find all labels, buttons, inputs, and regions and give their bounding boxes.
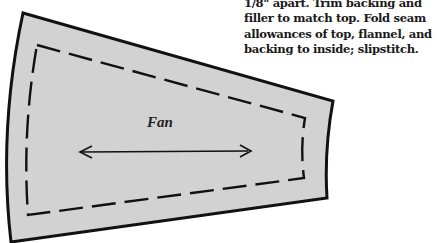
pattern-piece-label: Fan [147,114,173,131]
fan-pattern-piece [0,0,438,243]
